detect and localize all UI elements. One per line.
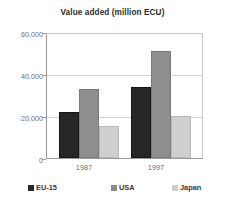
plot-area [46, 33, 203, 159]
x-axis-label-1997: 1997 [126, 163, 186, 172]
legend-label-eu15: EU-15 [36, 183, 57, 192]
gridline-40000 [47, 75, 202, 76]
bar-chart-figure: Value added (million ECU) 60,000 40,000 … [0, 0, 225, 207]
legend-item-japan: Japan [172, 183, 201, 192]
y-axis-tick-label-60000: 60,000 [0, 30, 43, 39]
bar-eu15-1987 [59, 112, 79, 158]
chart-legend: EU-15 USA Japan [0, 183, 225, 197]
legend-item-usa: USA [111, 183, 135, 192]
y-axis-tick-mark-0 [42, 159, 46, 160]
y-axis-tick-label-20000: 20,000 [0, 114, 43, 123]
bar-japan-1987 [99, 126, 119, 158]
y-axis-tick-label-0: 0 [0, 156, 43, 165]
y-axis-tick-label-40000: 40,000 [0, 72, 43, 81]
chart-title: Value added (million ECU) [0, 8, 225, 17]
bar-japan-1997 [171, 116, 191, 158]
legend-item-eu15: EU-15 [28, 183, 57, 192]
legend-swatch-eu15 [28, 185, 34, 191]
bar-eu15-1997 [131, 87, 151, 158]
legend-label-japan: Japan [180, 183, 201, 192]
legend-label-usa: USA [119, 183, 135, 192]
legend-swatch-usa [111, 185, 117, 191]
x-axis-label-1987: 1987 [54, 163, 114, 172]
bar-usa-1997 [151, 51, 171, 158]
legend-swatch-japan [172, 185, 178, 191]
bar-usa-1987 [79, 89, 99, 158]
